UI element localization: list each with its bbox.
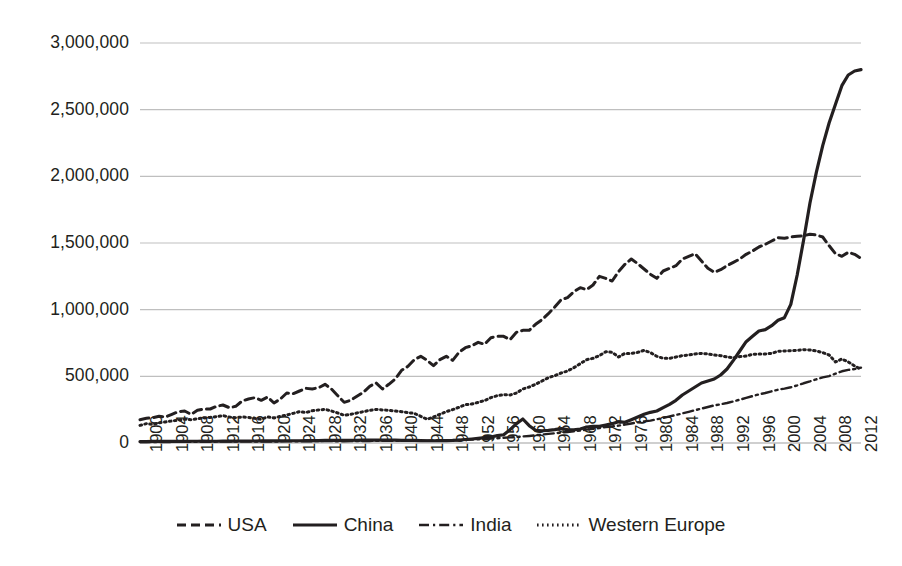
x-axis-tick-label: 1968 <box>581 415 600 452</box>
legend-label: China <box>344 514 394 536</box>
legend-item-china[interactable]: China <box>293 514 394 536</box>
gridlines-group <box>140 43 861 443</box>
chart-container: 0500,0001,000,0001,500,0002,000,0002,500… <box>0 0 902 566</box>
series-group <box>140 70 861 442</box>
x-axis-tick-label: 1972 <box>606 415 625 452</box>
x-axis-tick-label: 1988 <box>708 415 727 452</box>
legend-swatch-dashed-icon <box>177 518 221 532</box>
legend-item-usa[interactable]: USA <box>177 514 267 536</box>
x-axis-tick-label: 1944 <box>428 415 447 452</box>
x-axis-tick-label: 1964 <box>555 415 574 452</box>
x-axis-tick-label: 1940 <box>402 415 421 452</box>
x-axis-tick-label: 1932 <box>351 415 370 452</box>
x-axis-tick-label: 1996 <box>760 415 779 452</box>
x-axis-tick-label: 1924 <box>300 415 319 452</box>
legend-label: India <box>470 514 511 536</box>
legend-swatch-dotted-icon <box>537 518 581 532</box>
legend-item-western-europe[interactable]: Western Europe <box>537 514 725 536</box>
x-axis-tick-label: 1980 <box>657 415 676 452</box>
y-axis-tick-label: 2,500,000 <box>50 99 129 120</box>
x-axis-tick-label: 1984 <box>683 415 702 452</box>
x-axis-tick-label: 1900 <box>147 415 166 452</box>
x-axis-tick-label: 1904 <box>173 415 192 452</box>
legend-item-india[interactable]: India <box>419 514 511 536</box>
x-axis-tick-label: 1960 <box>530 415 549 452</box>
x-axis-tick-label: 1916 <box>249 415 268 452</box>
x-axis-tick-label: 1936 <box>377 415 396 452</box>
series-line-usa <box>140 234 861 419</box>
series-line-china <box>140 70 861 442</box>
legend-swatch-dashdot-icon <box>419 518 463 532</box>
x-axis-tick-label: 2012 <box>862 415 881 452</box>
chart-plot-area <box>0 0 902 566</box>
x-axis-tick-label: 1976 <box>632 415 651 452</box>
y-axis-tick-label: 3,000,000 <box>50 32 129 53</box>
x-axis-tick-label: 1928 <box>326 415 345 452</box>
x-axis-tick-label: 1952 <box>479 415 498 452</box>
legend-label: USA <box>228 514 267 536</box>
x-axis-tick-label: 1992 <box>734 415 753 452</box>
chart-legend: USAChinaIndiaWestern Europe <box>0 514 902 536</box>
series-line-western-europe <box>140 350 861 426</box>
x-axis-tick-label: 2004 <box>811 415 830 452</box>
x-axis-tick-label: 1948 <box>453 415 472 452</box>
x-axis-tick-label: 1908 <box>198 415 217 452</box>
y-axis-tick-label: 1,000,000 <box>50 299 129 320</box>
x-axis-tick-label: 2008 <box>836 415 855 452</box>
legend-label: Western Europe <box>588 514 725 536</box>
x-axis-tick-label: 2000 <box>785 415 804 452</box>
y-axis-tick-label: 500,000 <box>65 365 129 386</box>
legend-swatch-solid-icon <box>293 518 337 532</box>
x-axis-tick-label: 1956 <box>504 415 523 452</box>
x-axis-tick-label: 1920 <box>275 415 294 452</box>
y-axis-tick-label: 2,000,000 <box>50 165 129 186</box>
y-axis-tick-label: 0 <box>119 432 129 453</box>
x-axis-tick-label: 1912 <box>224 415 243 452</box>
y-axis-tick-label: 1,500,000 <box>50 232 129 253</box>
